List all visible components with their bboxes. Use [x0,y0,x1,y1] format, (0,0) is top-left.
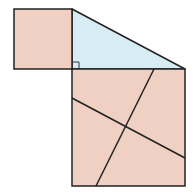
pythagorean-diagram [0,0,195,194]
small-square [14,9,72,69]
